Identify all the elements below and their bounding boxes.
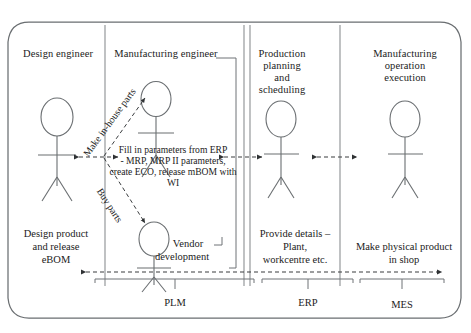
lane-caption-provide-details-line3: workcentre etc. — [251, 254, 339, 267]
lane-caption-provide-details-line2: Plant, — [251, 241, 339, 254]
lane-header-manufacturing-operation-line2: operation — [362, 60, 448, 73]
production-planner-actor — [264, 101, 299, 198]
center-note-line2: - MRP, MRP II parameters, — [108, 155, 238, 166]
center-note-line3: create ECO, release mBOM with — [104, 166, 242, 177]
system-label-mes: MES — [378, 299, 426, 310]
lane-header-production-planning-line2: planning — [252, 60, 312, 73]
center-note-line4: WI — [108, 177, 238, 188]
lane-header-production-planning-line4: scheduling — [252, 84, 312, 97]
lane-header-manufacturing-engineer: Manufacturing engineer — [110, 48, 222, 61]
diagram-canvas: Design engineer Manufacturing engineer P… — [0, 0, 471, 333]
callout-vendor-development-line2: development — [148, 251, 216, 264]
manufacturing-operator-actor — [388, 101, 423, 198]
lane-header-manufacturing-operation-line3: execution — [362, 72, 448, 85]
system-label-erp: ERP — [284, 297, 332, 308]
system-braces — [95, 279, 444, 289]
center-note-line1: Fill in parameters from ERP — [108, 144, 238, 155]
lane-caption-provide-details-line1: Provide details – — [251, 228, 339, 241]
lane-header-manufacturing-operation-line1: Manufacturing — [362, 48, 448, 61]
lane-header-design-engineer: Design engineer — [12, 48, 104, 61]
design-engineer-actor — [38, 98, 76, 201]
system-label-plm: PLM — [150, 297, 200, 308]
lane-header-production-planning-line3: and — [252, 72, 312, 85]
lane-caption-design-product-line3: eBOM — [9, 254, 103, 267]
lane-caption-design-product-line2: and release — [9, 241, 103, 254]
callout-vendor-development-line1: Vendor — [160, 238, 216, 251]
lane-header-production-planning-line1: Production — [252, 48, 312, 61]
lane-caption-make-physical-line1: Make physical product — [345, 241, 463, 254]
lane-caption-make-physical-line2: in shop — [345, 254, 463, 267]
lane-caption-design-product-line1: Design product — [9, 228, 103, 241]
